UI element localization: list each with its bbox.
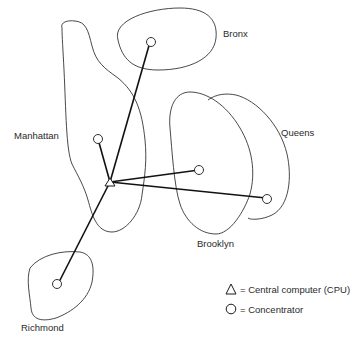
concentrator-brooklyn <box>195 166 204 175</box>
link-cpu-queens <box>110 182 266 198</box>
label-queens: Queens <box>281 127 314 138</box>
concentrator-bronx <box>147 38 156 47</box>
concentrator-queens <box>263 195 272 204</box>
legend-cpu-text: = Central computer (CPU) <box>240 284 350 295</box>
legend-concentrator: = Concentrator <box>225 303 303 315</box>
link-cpu-richmond <box>58 182 110 284</box>
region-bronx <box>117 8 216 70</box>
region-manhattan <box>62 21 146 232</box>
link-cpu-bronx <box>110 42 150 182</box>
label-brooklyn: Brooklyn <box>197 238 234 249</box>
link-cpu-brooklyn <box>110 170 199 182</box>
concentrator-manhattan <box>94 135 103 144</box>
region-brooklyn <box>170 92 253 234</box>
legend-cpu: = Central computer (CPU) <box>225 283 350 295</box>
concentrator-richmond <box>53 280 62 289</box>
region-queens <box>208 94 289 219</box>
triangle-icon <box>225 283 237 295</box>
label-manhattan: Manhattan <box>14 130 59 141</box>
label-bronx: Bronx <box>223 28 248 39</box>
legend-concentrator-text: = Concentrator <box>240 304 303 315</box>
circle-icon <box>225 303 237 315</box>
link-cpu-manhattan <box>98 139 110 182</box>
label-richmond: Richmond <box>21 322 64 333</box>
